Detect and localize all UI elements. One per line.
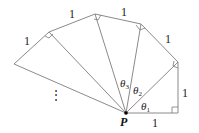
theta-3-label: θ3 (120, 77, 129, 91)
outer-edges (14, 14, 178, 113)
unit-edge-5 (14, 32, 49, 64)
theta-2-label: θ2 (133, 84, 142, 98)
unit-edge-3 (95, 14, 141, 24)
spoke-3 (95, 14, 126, 113)
point-p-label: P (120, 115, 128, 129)
spokes (14, 14, 178, 113)
unit-label-4: 1 (69, 7, 75, 21)
right-angle-icon (172, 107, 178, 113)
theta-1-label: θ1 (141, 100, 150, 114)
unit-label-2: 1 (165, 32, 171, 46)
spoke-5 (14, 64, 126, 113)
unit-label-3: 1 (121, 5, 127, 19)
base-unit-label: 1 (152, 116, 158, 130)
spiral-diagram: 1 1 1 1 1 1 θ1 θ2 θ3 ⋮ P (0, 0, 199, 133)
spoke-2 (126, 24, 141, 113)
unit-label-5: 1 (24, 34, 30, 48)
unit-edge-2 (141, 24, 178, 62)
unit-label-1: 1 (182, 86, 188, 100)
continuation-ellipsis: ⋮ (50, 88, 62, 102)
